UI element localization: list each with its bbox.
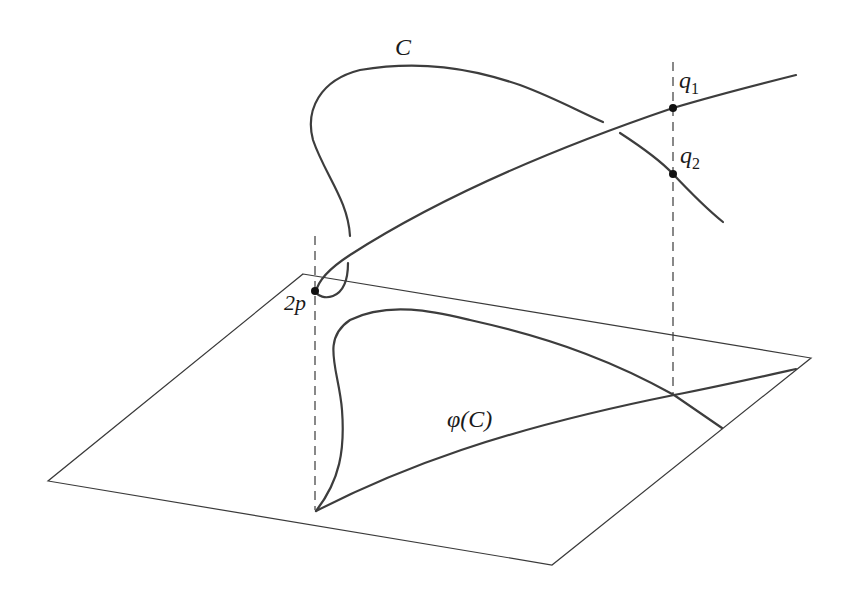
- point-q1: [669, 104, 677, 112]
- label-q2: q2: [680, 142, 700, 172]
- label-q2-sub: 2: [692, 155, 700, 172]
- label-q1-base: q: [679, 67, 691, 93]
- label-projection: φ(C): [447, 406, 492, 432]
- label-q2-base: q: [680, 142, 692, 168]
- label-2p: 2p: [284, 290, 306, 315]
- diagram-canvas: C φ(C) 2p q1 q2: [0, 0, 851, 589]
- projected-curve-loop: [316, 309, 722, 511]
- label-q1-sub: 1: [691, 80, 699, 97]
- label-q1: q1: [679, 67, 699, 97]
- diagram-svg: C φ(C) 2p q1 q2: [0, 0, 851, 589]
- space-curve-branch: [316, 75, 796, 292]
- point-2p: [311, 287, 319, 295]
- label-curve-c: C: [395, 34, 412, 60]
- point-q2: [669, 170, 677, 178]
- projection-plane: [48, 274, 811, 565]
- projected-curve-branch: [316, 369, 796, 511]
